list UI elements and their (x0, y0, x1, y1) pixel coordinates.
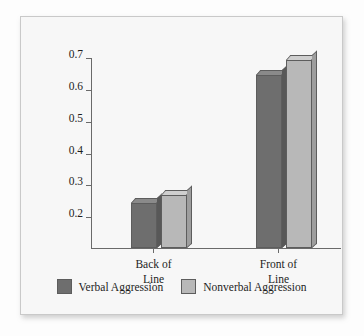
legend-label-nonverbal: Nonverbal Aggression (203, 281, 306, 293)
y-tick-label: 0.4 (69, 145, 83, 157)
figure-canvas: Mean Aggression Score 0.70.60.50.40.30.2… (0, 0, 364, 336)
x-axis-tick-back (153, 248, 154, 253)
y-tick-label: 0.3 (69, 176, 83, 188)
legend-label-verbal: Verbal Aggression (79, 281, 164, 293)
y-tick-mark (86, 122, 91, 123)
x-axis-tick-front (278, 248, 279, 253)
chart-frame: Mean Aggression Score 0.70.60.50.40.30.2… (20, 16, 343, 315)
x-axis-line (91, 248, 341, 249)
bar-nonverbal-group-0 (161, 195, 187, 248)
bar-face (161, 195, 187, 248)
y-tick-label: 0.7 (69, 49, 83, 61)
bar-face (256, 75, 282, 248)
y-tick-mark (86, 185, 91, 186)
y-tick-label: 0.6 (69, 81, 83, 93)
bar-side-face (187, 186, 192, 248)
y-tick-mark (86, 217, 91, 218)
legend-swatch-nonverbal-icon (181, 279, 196, 294)
y-tick-label: 0.2 (69, 208, 83, 220)
y-axis-line (91, 58, 92, 249)
bar-side-face (312, 51, 317, 248)
bar-face (286, 60, 312, 248)
plot-area: 0.70.60.50.40.30.2 (91, 58, 341, 249)
chart-legend: Verbal Aggression Nonverbal Aggression (21, 279, 342, 294)
bar-verbal-group-1 (256, 75, 282, 248)
bar-verbal-group-0 (131, 203, 157, 248)
y-tick-mark (86, 58, 91, 59)
y-tick-label: 0.5 (69, 113, 83, 125)
y-tick-mark (86, 154, 91, 155)
bar-nonverbal-group-1 (286, 60, 312, 248)
bar-face (131, 203, 157, 248)
legend-swatch-verbal-icon (57, 279, 72, 294)
legend-item-verbal: Verbal Aggression (57, 279, 164, 294)
y-axis-title: Mean Aggression Score (47, 0, 61, 58)
y-tick-mark (86, 90, 91, 91)
legend-item-nonverbal: Nonverbal Aggression (181, 279, 306, 294)
